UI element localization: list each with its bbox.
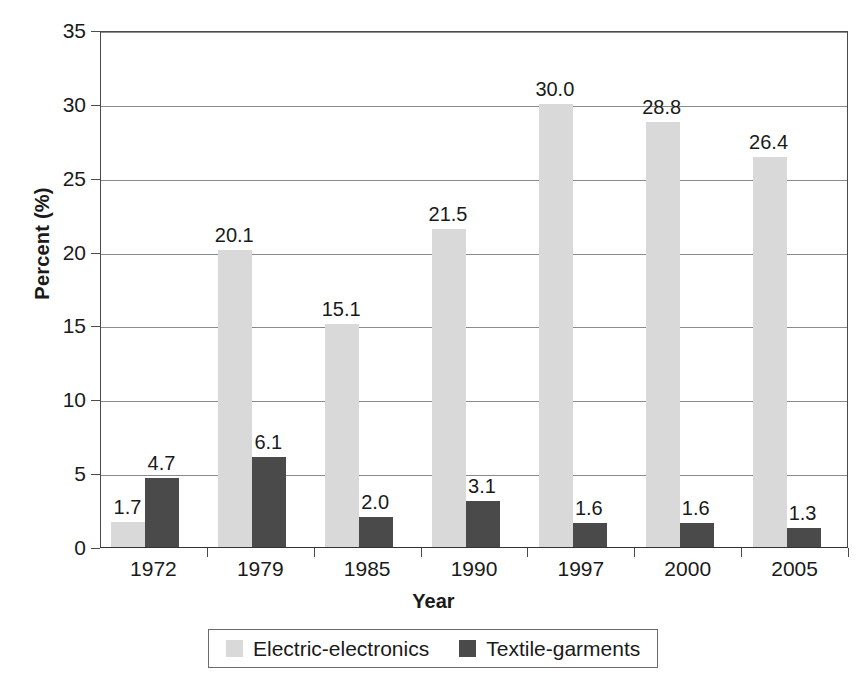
bar-1985-series1	[359, 517, 393, 547]
x-axis-tick-label-1979: 1979	[200, 557, 320, 581]
y-axis-tick	[91, 474, 100, 475]
bar-value-label: 20.1	[189, 225, 279, 246]
bar-1979-series0	[218, 250, 252, 547]
y-axis-tick	[91, 31, 100, 32]
y-axis-tick	[91, 179, 100, 180]
bar-1990-series0	[432, 229, 466, 547]
bar-1972-series0	[111, 522, 145, 547]
x-axis-tick-label-1972: 1972	[93, 557, 213, 581]
gridline	[101, 32, 847, 33]
y-axis-tick	[91, 326, 100, 327]
gridline	[101, 401, 847, 402]
bar-1997-series1	[573, 523, 607, 547]
x-axis-title: Year	[0, 590, 867, 613]
bar-2005-series0	[753, 157, 787, 547]
bar-value-label: 30.0	[510, 79, 600, 100]
x-axis-tick	[848, 548, 849, 557]
bar-value-label: 6.1	[223, 432, 313, 453]
x-axis-tick	[207, 548, 208, 557]
bar-value-label: 21.5	[403, 204, 493, 225]
legend-swatch-textile-garments	[459, 640, 476, 657]
bar-1985-series0	[325, 324, 359, 547]
y-axis-tick	[91, 400, 100, 401]
y-axis-tick-label: 25	[40, 168, 86, 189]
bar-value-label: 1.7	[82, 497, 172, 518]
x-axis-tick	[741, 548, 742, 557]
bar-2000-series1	[680, 523, 714, 547]
x-axis-tick-label-1985: 1985	[307, 557, 427, 581]
chart-legend: Electric-electronics Textile-garments	[208, 629, 658, 668]
y-axis-tick-label: 20	[40, 242, 86, 263]
bar-2005-series1	[787, 528, 821, 547]
bar-value-label: 15.1	[296, 299, 386, 320]
bar-value-label: 1.3	[758, 503, 848, 524]
bar-value-label: 26.4	[724, 132, 814, 153]
y-axis-tick-label: 30	[40, 94, 86, 115]
x-axis-tick-label-2000: 2000	[628, 557, 748, 581]
gridline	[101, 106, 847, 107]
bar-value-label: 3.1	[437, 476, 527, 497]
y-axis-tick	[91, 105, 100, 106]
x-axis-tick-label-1997: 1997	[521, 557, 641, 581]
y-axis-tick-label: 5	[40, 463, 86, 484]
bar-1979-series1	[252, 457, 286, 547]
y-axis-tick-label: 10	[40, 389, 86, 410]
bar-chart-figure: Percent (%) Year Electric-electronics Te…	[0, 0, 867, 681]
y-axis-tick-label: 15	[40, 315, 86, 336]
bar-value-label: 28.8	[617, 97, 707, 118]
x-axis-tick	[314, 548, 315, 557]
x-axis-tick	[634, 548, 635, 557]
legend-label-electric-electronics: Electric-electronics	[253, 638, 429, 659]
bar-value-label: 2.0	[330, 492, 420, 513]
y-axis-tick-label: 35	[40, 20, 86, 41]
bar-value-label: 4.7	[116, 453, 206, 474]
x-axis-tick	[421, 548, 422, 557]
bar-1990-series1	[466, 501, 500, 547]
gridline	[101, 254, 847, 255]
y-axis-tick	[91, 253, 100, 254]
gridline	[101, 327, 847, 328]
gridline	[101, 180, 847, 181]
x-axis-tick	[527, 548, 528, 557]
bar-value-label: 1.6	[651, 498, 741, 519]
legend-item-electric-electronics: Electric-electronics	[226, 638, 429, 659]
legend-label-textile-garments: Textile-garments	[486, 638, 640, 659]
y-axis-tick-label: 0	[40, 537, 86, 558]
x-axis-tick-label-2005: 2005	[735, 557, 855, 581]
y-axis-tick	[91, 548, 100, 549]
bar-value-label: 1.6	[544, 498, 634, 519]
legend-swatch-electric-electronics	[226, 640, 243, 657]
bar-1997-series0	[539, 104, 573, 547]
legend-item-textile-garments: Textile-garments	[459, 638, 640, 659]
plot-area	[100, 31, 848, 548]
bar-2000-series0	[646, 122, 680, 547]
x-axis-tick-label-1990: 1990	[414, 557, 534, 581]
